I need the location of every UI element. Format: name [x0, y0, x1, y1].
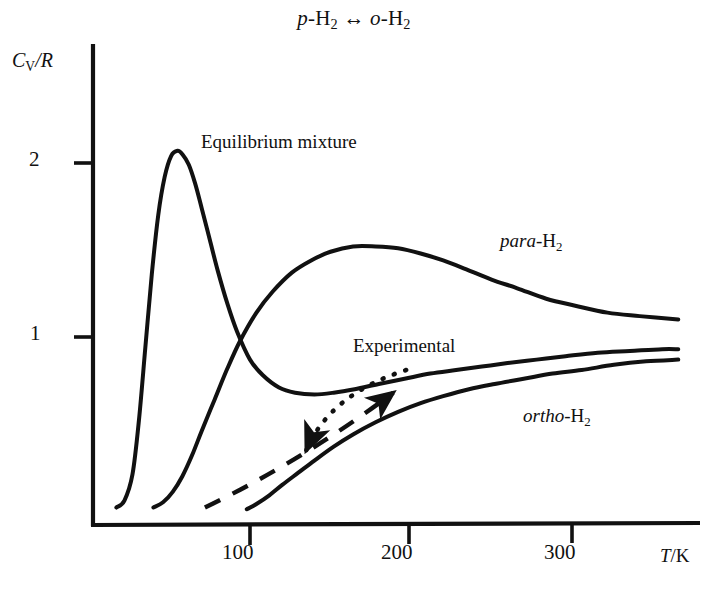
hydrogen-heat-capacity-figure: p-H2 ↔ o-H2 CV/R T/K 2 1 100 200 300 Equ… [0, 0, 708, 605]
curve-equilibrium-mixture [116, 151, 678, 508]
axes [91, 44, 700, 526]
experimental-dashed-arrow [205, 393, 393, 508]
data-curves [116, 151, 678, 509]
annotation-arrows [205, 370, 406, 507]
plot-canvas [0, 0, 708, 605]
x-axis-line [91, 523, 700, 525]
curve-ortho-h2 [247, 360, 678, 510]
axis-ticks [74, 163, 572, 545]
